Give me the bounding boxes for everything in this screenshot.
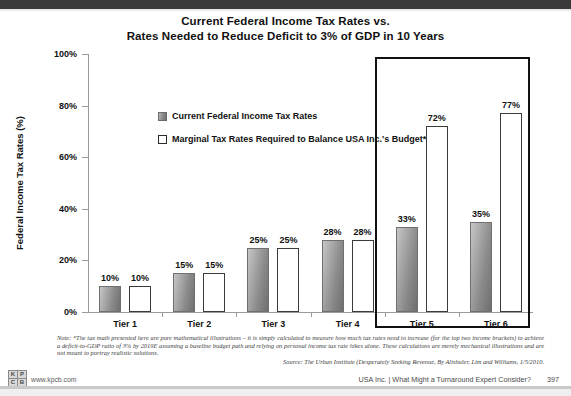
bar-required[interactable] <box>129 286 151 312</box>
category-separator <box>162 313 163 317</box>
category-label-1: Tier 1 <box>88 319 162 329</box>
bar-required[interactable] <box>426 126 448 312</box>
bar-current[interactable] <box>396 227 418 312</box>
bar-groups: 10%10%15%15%25%25%28%28%33%72%35%77% <box>88 54 533 312</box>
category-label-2: Tier 2 <box>162 319 236 329</box>
bar-group: 33%72% <box>385 54 459 312</box>
y-tick-label-20: 20% <box>59 255 77 265</box>
logo-cell-p: P <box>18 371 26 378</box>
bar-current[interactable] <box>247 248 269 313</box>
y-tick-label-0: 0% <box>64 307 77 317</box>
slide: Current Federal Income Tax Rates vs. Rat… <box>0 0 571 396</box>
bar-group: 28%28% <box>311 54 385 312</box>
bar-value-label: 28% <box>354 227 372 237</box>
title-line-1: Current Federal Income Tax Rates vs. <box>181 15 390 27</box>
title-line-2: Rates Needed to Reduce Deficit to 3% of … <box>0 29 571 44</box>
bar-current[interactable] <box>322 240 344 312</box>
bar-value-label: 33% <box>398 214 416 224</box>
category-separator <box>236 313 237 317</box>
footnote-source: Source: The Urban Institute (Desperately… <box>57 358 544 366</box>
bar-value-label: 15% <box>205 260 223 270</box>
chart-area: Federal Income Tax Rates (%) 0%20%40%60%… <box>63 54 533 312</box>
top-banner-underline <box>0 9 571 11</box>
category-label-4: Tier 4 <box>311 319 385 329</box>
bottom-strip <box>0 389 571 396</box>
category-label-5: Tier 5 <box>385 319 459 329</box>
x-axis-categories: Tier 1Tier 2Tier 3Tier 4Tier 5Tier 6 <box>88 313 533 335</box>
y-tick-label-40: 40% <box>59 204 77 214</box>
footnote-text: Note: *The tax math presented here are p… <box>57 334 544 356</box>
bar-required[interactable] <box>277 248 299 313</box>
logo-cell-b: B <box>18 379 26 386</box>
page-title: Current Federal Income Tax Rates vs. Rat… <box>0 14 571 44</box>
bar-group: 25%25% <box>236 54 310 312</box>
kpcb-website-link[interactable]: www.kpcb.com <box>31 376 76 383</box>
logo-cell-k: K <box>9 371 17 378</box>
bar-value-label: 28% <box>324 227 342 237</box>
bar-required[interactable] <box>203 273 225 312</box>
top-banner-strip <box>0 0 571 9</box>
bar-value-label: 15% <box>175 260 193 270</box>
bar-required[interactable] <box>352 240 374 312</box>
footnote-note: Note: *The tax math presented here are p… <box>57 334 544 357</box>
category-label-3: Tier 3 <box>236 319 310 329</box>
bar-value-label: 35% <box>472 209 490 219</box>
bar-group: 15%15% <box>162 54 236 312</box>
deck-title: USA Inc. | What Might a Turnaround Exper… <box>359 375 531 384</box>
bar-current[interactable] <box>470 222 492 312</box>
kpcb-logo-icon: K P C B <box>8 370 27 387</box>
bar-group: 10%10% <box>88 54 162 312</box>
category-label-6: Tier 6 <box>459 319 533 329</box>
category-separator <box>459 313 460 317</box>
category-separator <box>385 313 386 317</box>
bar-required[interactable] <box>500 113 522 312</box>
y-tick-label-60: 60% <box>59 152 77 162</box>
bar-current[interactable] <box>99 286 121 312</box>
bar-value-label: 72% <box>428 113 446 123</box>
bar-value-label: 77% <box>502 100 520 110</box>
category-separator <box>311 313 312 317</box>
y-tick-label-100: 100% <box>54 49 77 59</box>
bar-value-label: 10% <box>131 273 149 283</box>
bar-current[interactable] <box>173 273 195 312</box>
bar-value-label: 25% <box>279 235 297 245</box>
y-axis-title: Federal Income Tax Rates (%) <box>14 116 25 250</box>
page-number: 397 <box>547 375 559 384</box>
bar-value-label: 25% <box>249 235 267 245</box>
bar-value-label: 10% <box>101 273 119 283</box>
bar-group: 35%77% <box>459 54 533 312</box>
y-tick-label-80: 80% <box>59 101 77 111</box>
logo-cell-c: C <box>9 379 17 386</box>
